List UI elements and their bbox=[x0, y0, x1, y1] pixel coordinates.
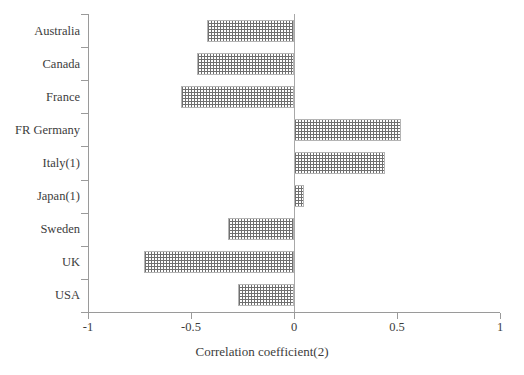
y-axis-category-label: UK bbox=[62, 255, 80, 270]
y-axis-category-label: Canada bbox=[43, 56, 80, 71]
y-axis-category-label: Italy(1) bbox=[43, 156, 80, 171]
y-axis-category-label: Sweden bbox=[40, 222, 80, 237]
bar bbox=[144, 251, 294, 273]
y-axis-tick bbox=[81, 312, 88, 313]
y-axis-tick bbox=[81, 279, 88, 280]
y-axis-tick bbox=[81, 246, 88, 247]
y-axis-tick bbox=[81, 14, 88, 15]
y-axis-category-label: Japan(1) bbox=[37, 189, 80, 204]
x-axis-tick-label: -1 bbox=[83, 320, 93, 335]
x-axis-tick bbox=[88, 313, 89, 319]
x-axis-tick-label: 1 bbox=[497, 320, 503, 335]
bar bbox=[294, 185, 304, 207]
bar bbox=[294, 152, 385, 174]
x-axis-tick-label: -0.5 bbox=[181, 320, 201, 335]
y-axis-category-label: France bbox=[46, 89, 80, 104]
y-axis-tick bbox=[81, 80, 88, 81]
y-axis-category-label: Australia bbox=[34, 23, 80, 38]
y-axis-tick bbox=[81, 47, 88, 48]
x-axis-title: Correlation coefficient(2) bbox=[0, 344, 524, 360]
x-axis-tick-label: 0.5 bbox=[389, 320, 405, 335]
bar bbox=[181, 86, 294, 108]
x-axis-tick bbox=[397, 313, 398, 319]
bar bbox=[294, 119, 401, 141]
horizontal-bar-chart: AustraliaCanadaFranceFR GermanyItaly(1)J… bbox=[0, 0, 524, 375]
x-axis-tick-label: 0 bbox=[291, 320, 297, 335]
bar bbox=[238, 284, 294, 306]
bar bbox=[228, 218, 294, 240]
y-axis-tick bbox=[81, 213, 88, 214]
y-axis-tick bbox=[81, 113, 88, 114]
bar bbox=[207, 20, 294, 42]
y-axis-category-label: USA bbox=[55, 288, 80, 303]
x-axis-tick bbox=[500, 313, 501, 319]
x-axis-tick bbox=[191, 313, 192, 319]
y-axis-category-label: FR Germany bbox=[15, 122, 80, 137]
y-axis-tick bbox=[81, 146, 88, 147]
x-axis-tick bbox=[294, 313, 295, 319]
bar bbox=[197, 53, 294, 75]
y-axis-line bbox=[88, 14, 89, 312]
y-axis-tick bbox=[81, 180, 88, 181]
